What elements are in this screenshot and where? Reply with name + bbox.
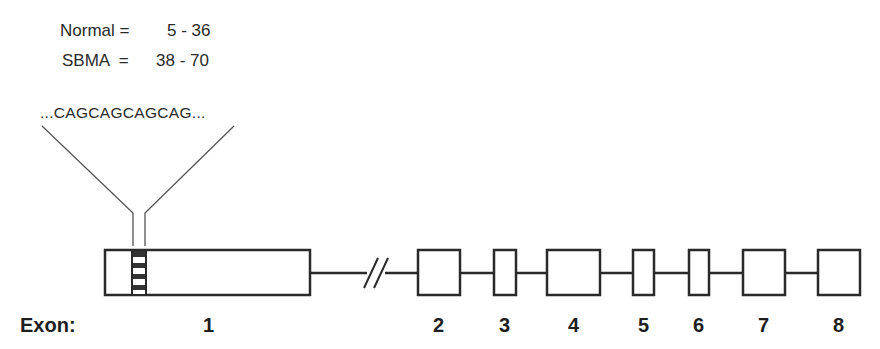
exon-box-8 xyxy=(818,250,860,295)
exon-box-6 xyxy=(689,250,709,295)
exon-label-6: 6 xyxy=(693,314,704,337)
exon-label-2: 2 xyxy=(433,314,444,337)
gene-structure-diagram xyxy=(0,0,880,349)
exon-box-3 xyxy=(494,250,516,295)
exon-label-7: 7 xyxy=(758,314,769,337)
exon-box-7 xyxy=(743,250,785,295)
axis-break-icon xyxy=(364,258,388,288)
cag-repeat-region xyxy=(132,250,146,295)
zoom-funnel xyxy=(42,126,234,246)
exon-box-2 xyxy=(418,250,460,295)
exon-axis-label: Exon: xyxy=(20,314,76,337)
exon-label-8: 8 xyxy=(833,314,844,337)
exon-box-4 xyxy=(547,250,600,295)
exon-box-5 xyxy=(633,250,654,295)
exon-label-1: 1 xyxy=(203,314,214,337)
exon-label-4: 4 xyxy=(568,314,579,337)
exon-label-3: 3 xyxy=(499,314,510,337)
exon-label-5: 5 xyxy=(638,314,649,337)
